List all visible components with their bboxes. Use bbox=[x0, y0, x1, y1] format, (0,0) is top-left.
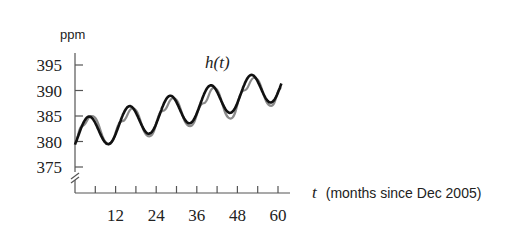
x-axis-label: t (months since Dec 2005) bbox=[312, 183, 481, 202]
x-axis-variable: t bbox=[312, 183, 318, 202]
x-axis-units: (months since Dec 2005) bbox=[326, 185, 482, 201]
y-ticks: 375380385390395 bbox=[37, 56, 84, 177]
h-t-annotation: h(t) bbox=[205, 53, 230, 72]
y-tick-label: 390 bbox=[37, 82, 63, 101]
y-tick-label: 375 bbox=[37, 158, 63, 177]
y-tick-label: 380 bbox=[37, 133, 63, 152]
x-tick-label: 36 bbox=[188, 206, 205, 225]
y-axis-label: ppm bbox=[60, 27, 85, 42]
x-tick-label: 60 bbox=[270, 206, 287, 225]
model-h-t-line bbox=[75, 75, 281, 145]
axes bbox=[71, 53, 290, 193]
x-tick-label: 12 bbox=[107, 206, 124, 225]
x-tick-label: 24 bbox=[148, 206, 166, 225]
y-tick-label: 385 bbox=[37, 107, 63, 126]
co2-chart: ppm 375380385390395 1224364860 h(t) t (m… bbox=[0, 0, 530, 234]
x-tick-label: 48 bbox=[229, 206, 246, 225]
measured-data-line bbox=[75, 78, 281, 144]
y-tick-label: 395 bbox=[37, 56, 63, 75]
x-ticks: 1224364860 bbox=[95, 186, 286, 225]
